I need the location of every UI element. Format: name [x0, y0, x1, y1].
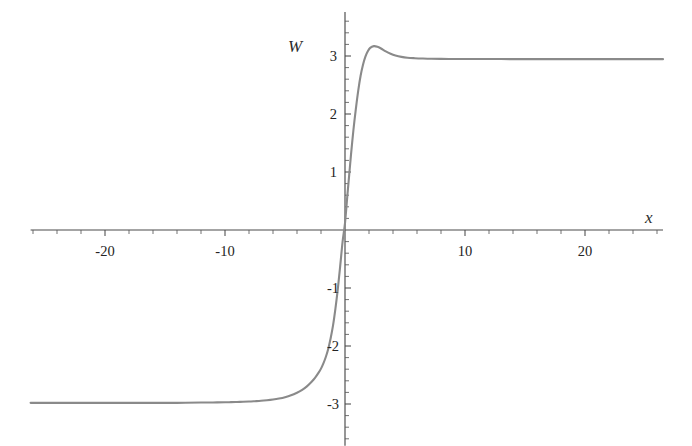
x-tick-label: -20	[95, 244, 114, 259]
y-tick-label: 3	[330, 49, 337, 64]
y-tick-label: -1	[327, 281, 339, 296]
y-axis-label: W	[288, 38, 302, 55]
x-tick-label: 20	[578, 244, 593, 259]
y-tick-label: 2	[330, 107, 337, 122]
y-tick-label: -3	[327, 397, 339, 412]
plot-canvas	[0, 0, 692, 446]
chart-figure: W x -20-101020321-1-2-3	[0, 0, 692, 446]
x-tick-label: 10	[458, 244, 473, 259]
x-tick-label: -10	[215, 244, 234, 259]
y-tick-label: -2	[327, 339, 339, 354]
data-series-curve	[31, 46, 663, 403]
y-tick-label: 1	[330, 165, 337, 180]
x-axis-label: x	[645, 209, 653, 226]
